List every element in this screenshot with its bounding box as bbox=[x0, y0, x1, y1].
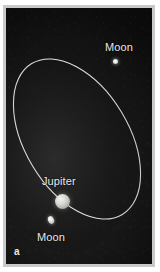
sky-panel: Moon Jupiter Moon a bbox=[6, 8, 152, 264]
figure-root: Moon Jupiter Moon a bbox=[0, 0, 160, 272]
label-moon-upper: Moon bbox=[105, 42, 133, 53]
jupiter-planet-disc bbox=[55, 194, 70, 209]
label-jupiter: Jupiter bbox=[42, 176, 76, 187]
moon-marker-upper bbox=[113, 59, 118, 64]
figure-frame: Moon Jupiter Moon a bbox=[3, 5, 155, 267]
label-moon-lower: Moon bbox=[37, 232, 65, 243]
sky-glow bbox=[6, 44, 140, 252]
panel-letter-label: a bbox=[14, 247, 20, 257]
